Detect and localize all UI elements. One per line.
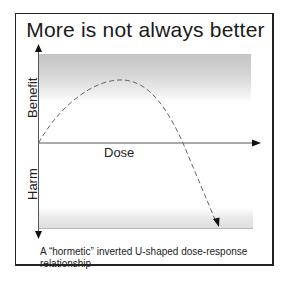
diagram-caption: A “hormetic” inverted U-shaped dose-resp…	[40, 246, 265, 270]
y-axis-label-benefit: Benefit	[25, 78, 40, 118]
y-axis-down-arrow-icon	[35, 231, 42, 239]
x-axis-arrow-icon	[252, 140, 261, 147]
x-axis-label-dose: Dose	[104, 145, 134, 160]
dose-response-plot	[0, 0, 291, 285]
y-axis-up-arrow-icon	[35, 44, 42, 52]
curve-arrowhead-icon	[213, 218, 220, 228]
y-axis-label-harm: Harm	[25, 168, 40, 200]
